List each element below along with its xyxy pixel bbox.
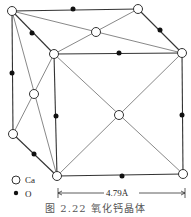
figure-caption: 图 2.22 氧化钙晶体 (0, 200, 191, 215)
o-legend-label: O (25, 189, 32, 199)
ca-legend-label: Ca (25, 175, 35, 185)
lattice-constant-label: 4.79Å (106, 188, 129, 198)
cao-crystal-diagram: Ca O 4.79Å (0, 0, 191, 217)
ca-legend-icon (12, 176, 20, 184)
legend: Ca O (12, 175, 35, 199)
o-legend-icon (14, 191, 18, 195)
